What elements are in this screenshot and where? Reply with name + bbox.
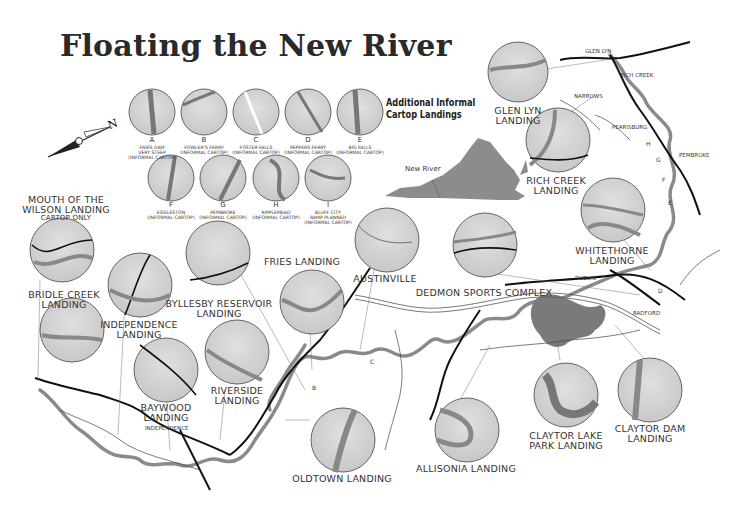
informal-landing-f[interactable] [148,155,194,201]
north-arrow-icon: N [48,116,120,157]
label-dedmon: DEDMON SPORTS COMPLEX [416,288,552,298]
informal-landing-b-label: B FOWLER'S FERRY (INFORMAL CARTOP) [180,137,227,155]
landing-circle-austinville[interactable] [355,208,419,272]
landing-circle-dedmon[interactable] [453,213,517,277]
town-pearisburg: PEARISBURG [612,124,647,130]
informal-landing-g-label: G PEMBROKE (INFORMAL CARTOP) [199,202,246,220]
claytor-lake [531,294,606,347]
landing-circle-glen-lyn[interactable] [488,42,548,102]
landing-circle-oldtown[interactable] [311,408,375,472]
additional-landings-heading: Additional Informal Cartop Landings [386,97,475,120]
label-baywood: BAYWOOD LANDING [140,403,191,423]
svg-text:C: C [370,358,374,365]
label-riverside: RIVERSIDE LANDING [211,386,263,406]
label-allisonia: ALLISONIA LANDING [416,464,516,474]
interstate-81 [355,293,660,334]
landing-circle-allisonia[interactable] [435,398,499,462]
informal-landing-b[interactable] [181,89,227,135]
informal-landing-i[interactable] [305,155,351,201]
informal-landing-g[interactable] [200,155,246,201]
landing-circle-claytor-lake-park[interactable] [534,363,598,427]
informal-landing-e-label: E BIG FALLS (INFORMAL CARTOP) [336,137,383,155]
label-whitethorne: WHITETHORNE LANDING [575,246,648,266]
informal-landing-c[interactable] [233,89,279,135]
informal-landing-f-label: F EGGLESTON (INFORMAL CARTOP) [147,202,194,220]
town-pembroke: PEMBROKE [679,152,710,158]
landing-circle-fries[interactable] [280,270,344,334]
town-dublin: DUBLIN [575,275,596,281]
label-austinville: AUSTINVILLE [353,274,416,284]
svg-text:G: G [656,156,661,163]
svg-text:F: F [662,176,666,183]
town-radford: RADFORD [633,310,660,316]
landing-circle-claytor-dam[interactable] [618,358,682,422]
town-glen-lyn: GLEN LYN [585,48,611,54]
informal-landing-h[interactable] [253,155,299,201]
informal-landing-circles-row1 [129,89,383,135]
informal-landing-h-label: H RIPPLEMEAD (INFORMAL CARTOP) [252,202,299,220]
label-mouth-of-wilson: MOUTH OF THE WILSON LANDING CARTOP ONLY [22,195,110,222]
landing-circle-mouth-of-wilson[interactable] [30,218,94,282]
town-independence: INDEPENDENCE [145,425,189,431]
label-glen-lyn: GLEN LYN LANDING [494,106,541,126]
informal-landing-i-label: I BLUFF CITY RAMP PLANNED (INFORMAL CART… [304,202,351,225]
svg-text:N: N [106,116,120,132]
informal-landing-d[interactable] [285,89,331,135]
label-claytor-lake-park: CLAYTOR LAKE PARK LANDING [529,431,603,451]
informal-landing-e[interactable] [337,89,383,135]
label-fries: FRIES LANDING [264,257,340,267]
informal-landing-a[interactable] [129,89,175,135]
svg-text:H: H [646,140,651,147]
svg-text:D: D [658,287,663,294]
label-byllesby: BYLLESBY RESERVOIR LANDING [166,299,273,319]
label-bridle-creek: BRIDLE CREEK LANDING [28,290,99,310]
informal-landing-d-label: D PEPPERS FERRY (INFORMAL CARTOP) [284,137,331,155]
label-claytor-dam: CLAYTOR DAM LANDING [615,424,686,444]
landing-circle-byllesby[interactable] [186,221,250,285]
town-rich-creek: RICH CREEK [620,72,653,78]
label-rich-creek: RICH CREEK LANDING [526,176,586,196]
label-independence: INDEPENDENCE LANDING [100,320,178,340]
landing-circle-riverside[interactable] [205,320,269,384]
town-narrows: NARROWS [574,93,603,99]
informal-landing-a-label: A FRIES DAM VERY STEEP (INFORMAL CARTOP) [128,137,175,160]
state-inset-new-river-label: New River [405,165,441,173]
landing-circle-baywood[interactable] [134,338,198,402]
svg-text:B: B [312,384,316,391]
label-oldtown: OLDTOWN LANDING [292,474,392,484]
svg-text:E: E [668,199,672,206]
informal-landing-circles-row2 [148,155,351,201]
landing-circle-whitethorne[interactable] [581,178,645,242]
landing-circle-independence[interactable] [108,253,172,317]
informal-landing-c-label: C FOSTER FALLS (INFORMAL CARTOP) [232,137,279,155]
